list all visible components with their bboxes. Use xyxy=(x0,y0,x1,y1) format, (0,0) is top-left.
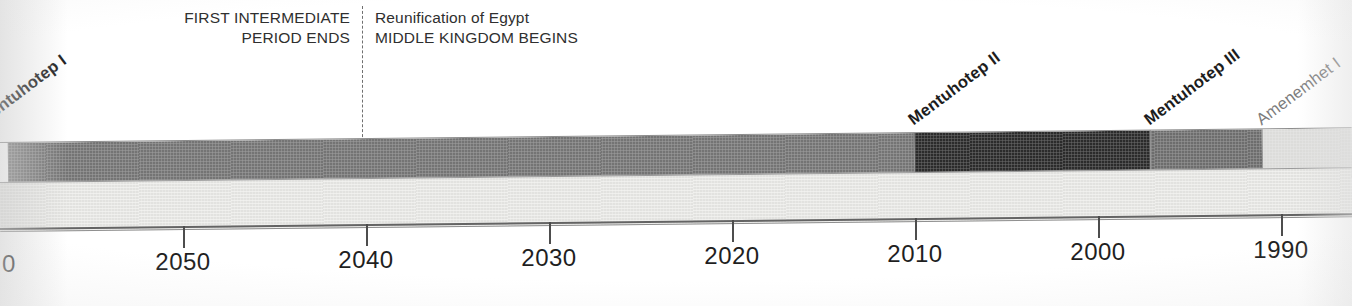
axis-tick-label: 2040 xyxy=(338,246,393,274)
timeline-axis: 02050204020302020201020001990 xyxy=(0,228,1352,306)
axis-tick-label: 2020 xyxy=(704,242,759,270)
axis-tick-mark xyxy=(549,222,551,244)
reign-label: Mentuhotep II xyxy=(905,48,1004,129)
axis-tick-label: 2010 xyxy=(887,240,942,268)
reign-label: Mentuhotep III xyxy=(1141,45,1244,129)
axis-tick-label: 0 xyxy=(2,250,16,278)
axis-tick-label: 2050 xyxy=(155,248,210,276)
axis-tick-mark xyxy=(915,218,917,240)
axis-tick-label: 1990 xyxy=(1253,236,1308,264)
axis-tick-label: 2000 xyxy=(1070,238,1125,266)
axis-tick-mark xyxy=(1281,214,1283,236)
axis-tick-mark xyxy=(1098,216,1100,238)
axis-tick-mark xyxy=(366,224,368,246)
axis-tick-label: 2030 xyxy=(521,244,576,272)
axis-tick-mark xyxy=(183,226,185,248)
timeline-figure: FIRST INTERMEDIATE PERIOD ENDS Reunifica… xyxy=(0,0,1352,306)
axis-tick-mark xyxy=(732,220,734,242)
